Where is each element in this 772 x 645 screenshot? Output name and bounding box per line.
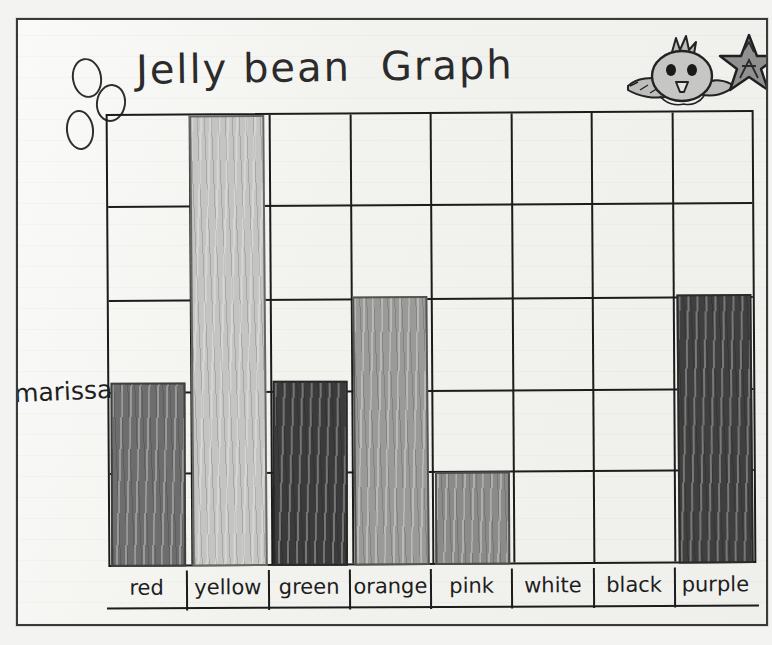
star-sticker bbox=[718, 32, 768, 94]
title-word-graph: Graph bbox=[381, 41, 514, 89]
bar-cell-yellow bbox=[187, 113, 271, 566]
bar-cell-red bbox=[106, 113, 190, 566]
bar-series bbox=[106, 110, 757, 567]
bar-cell-orange bbox=[349, 112, 433, 565]
bar-red bbox=[111, 383, 186, 567]
x-axis-label-yellow: yellow bbox=[188, 570, 269, 610]
bar-yellow bbox=[189, 115, 267, 567]
bar-cell-purple bbox=[673, 110, 757, 563]
page-title: Jelly beanGraph bbox=[136, 41, 514, 92]
hand-drawn-oval-icon bbox=[64, 109, 96, 152]
student-name-label: marissa bbox=[16, 375, 113, 408]
x-axis-label-green: green bbox=[269, 569, 350, 609]
bar-pink bbox=[435, 472, 510, 565]
x-axis-label-purple: purple bbox=[676, 567, 755, 607]
paper-sheet: Jelly beanGraph bbox=[16, 18, 768, 626]
x-axis-label-orange: orange bbox=[351, 569, 432, 609]
x-axis-label-pink: pink bbox=[432, 568, 513, 608]
bar-purple bbox=[677, 294, 754, 564]
bar-orange bbox=[353, 296, 430, 565]
bar-cell-white bbox=[511, 111, 595, 564]
title-word-jellybean: Jelly bean bbox=[136, 44, 352, 93]
chart-plot-area bbox=[107, 112, 755, 565]
x-axis-label-black: black bbox=[594, 568, 675, 608]
bar-green bbox=[273, 380, 348, 565]
x-axis-label-red: red bbox=[107, 570, 188, 610]
bar-cell-black bbox=[592, 111, 676, 564]
bar-cell-green bbox=[268, 112, 352, 565]
x-axis-label-white: white bbox=[513, 568, 594, 608]
bar-cell-pink bbox=[430, 112, 514, 565]
